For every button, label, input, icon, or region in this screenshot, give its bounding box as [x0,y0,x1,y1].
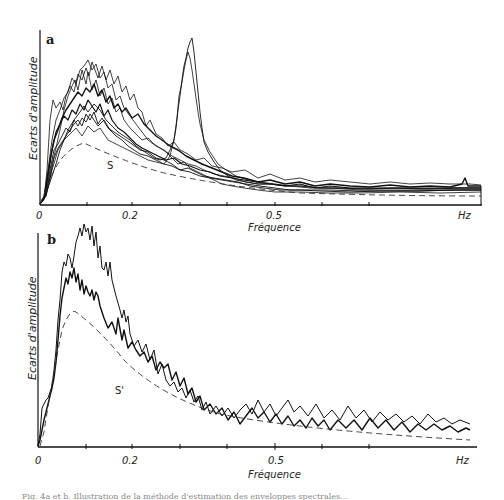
panel-a-x-tick-0: 0 [36,210,42,221]
panel-b-curve-label-S-prime: S' [115,385,124,396]
panel-a-spectra [40,38,481,204]
panel-b-x-axis-label: Fréquence [248,469,301,480]
panel-a-x-unit: Hz [458,210,471,221]
panel-b-x-tick-0-5: 0.5 [268,455,284,466]
panel-a-y-axis-label: Ecarts d'amplitude [27,57,40,160]
panel-a-x-tick-0-5: 0.5 [266,210,282,221]
panel-a-x-tick-0-2: 0.2 [122,210,138,221]
figure-caption: Fig. 4a et b. Illustration de la méthode… [22,492,492,500]
panel-b-x-tick-0-2: 0.2 [122,455,138,466]
panel-b-spectra [38,224,470,446]
panel-b-x-unit: Hz [456,455,469,466]
panel-a-x-axis-label: Fréquence [248,222,301,233]
panel-a-axes [40,30,482,206]
panel-b-x-tick-0: 0 [35,455,41,466]
panel-b-letter: b [47,232,56,247]
panel-a-curve-label-S: S [107,160,113,171]
panel-b-y-axis-label: Ecarts d'amplitude [26,277,39,380]
panel-a-envelope-S [40,143,481,204]
panel-a-letter: a [46,32,54,47]
